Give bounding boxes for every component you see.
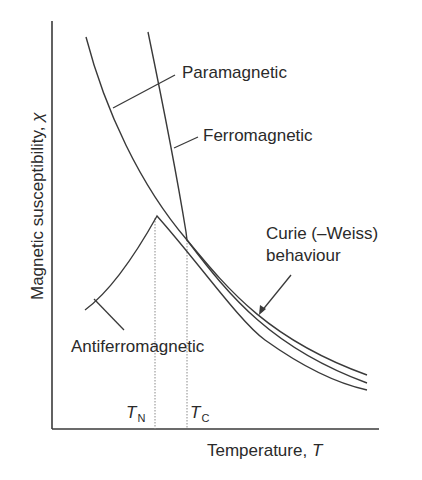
curie-weiss-label-line2: behaviour	[266, 246, 341, 265]
susceptibility-diagram: Magnetic susceptibility, χ Temperature, …	[0, 0, 422, 480]
x-axis-symbol: T	[312, 441, 324, 460]
ferromagnetic-leader	[174, 137, 198, 148]
y-axis-symbol: χ	[28, 112, 47, 124]
antiferromagnetic-label: Antiferromagnetic	[71, 337, 205, 356]
paramagnetic-label: Paramagnetic	[182, 63, 287, 82]
ferromagnetic-label: Ferromagnetic	[203, 126, 313, 145]
x-axis-label-text: Temperature,	[207, 441, 312, 460]
curie-weiss-label-line1: Curie (–Weiss)	[266, 224, 378, 243]
curie-temperature-label: TC	[190, 403, 209, 424]
y-axis-label-text: Magnetic susceptibility,	[28, 122, 47, 300]
ferromagnetic-curve	[148, 32, 367, 383]
paramagnetic-curve	[86, 37, 367, 375]
paramagnetic-leader	[113, 75, 175, 108]
x-axis-label: Temperature, T	[207, 441, 324, 460]
curie-weiss-arrow	[259, 275, 291, 315]
neel-temperature-label: TN	[126, 403, 145, 424]
y-axis-label: Magnetic susceptibility, χ	[28, 112, 47, 300]
antiferromagnetic-leader	[94, 299, 124, 330]
